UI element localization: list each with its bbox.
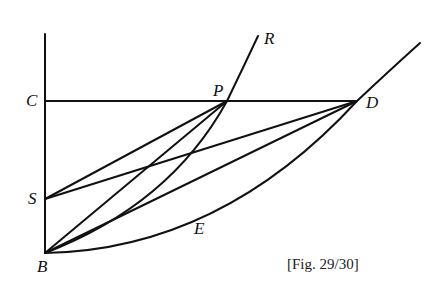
label-D: D: [366, 94, 378, 111]
curve-BPR: [45, 36, 258, 253]
label-B: B: [37, 258, 47, 275]
geometry-figure: C P R D S B E [Fig. 29/30]: [0, 0, 445, 297]
label-E: E: [194, 220, 204, 237]
label-R: R: [264, 30, 274, 47]
figure-caption: [Fig. 29/30]: [287, 257, 359, 272]
curve-BED: [45, 43, 420, 253]
label-S: S: [28, 190, 37, 207]
diagram-canvas: [0, 0, 445, 297]
label-P: P: [213, 82, 223, 99]
label-C: C: [26, 92, 37, 109]
